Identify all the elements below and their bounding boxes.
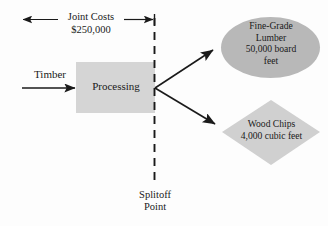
joint-cost-diagram: Joint Costs $250,000 Timber Processing S…	[0, 0, 328, 226]
splitoff-line-1: Splitoff	[124, 189, 186, 201]
splitoff-line-2: Point	[124, 201, 186, 213]
joint-costs-label: Joint Costs	[60, 11, 122, 23]
wood-chips-product-label: Wood Chips 4,000 cubic feet	[225, 118, 318, 141]
lumber-line-4: feet	[226, 55, 316, 67]
timber-label: Timber	[22, 68, 78, 80]
processing-label: Processing	[78, 80, 154, 92]
wood-chips-line-1: Wood Chips	[225, 118, 318, 130]
joint-costs-amount: $250,000	[57, 24, 125, 36]
lumber-product-label: Fine-Grade Lumber 50,000 board feet	[226, 20, 316, 66]
wood-chips-line-2: 4,000 cubic feet	[225, 130, 318, 142]
lumber-line-3: 50,000 board	[226, 43, 316, 55]
splitoff-point-label: Splitoff Point	[124, 189, 186, 213]
branch-arrow-wood-chips	[155, 88, 215, 124]
lumber-line-1: Fine-Grade	[226, 20, 316, 32]
lumber-line-2: Lumber	[226, 32, 316, 44]
branch-arrow-lumber	[155, 50, 213, 88]
